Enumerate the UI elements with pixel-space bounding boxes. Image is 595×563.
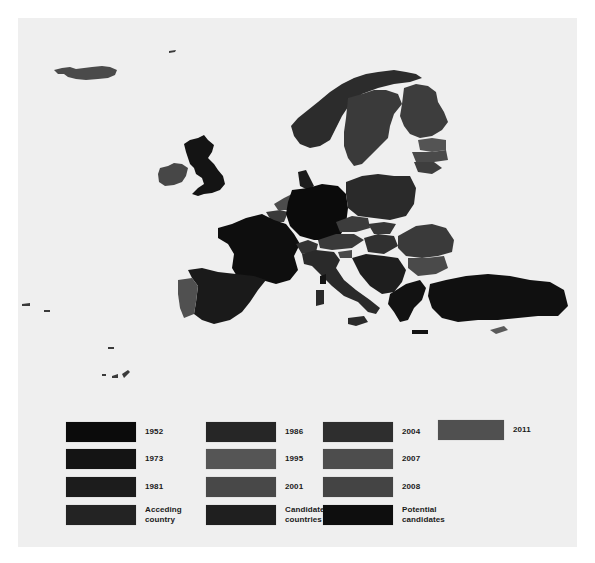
legend-label: 2004 [402, 427, 420, 437]
legend-label: 1952 [145, 427, 163, 437]
legend-item-acceding-country: Acceding country [66, 505, 182, 525]
legend-label: 2007 [402, 454, 420, 464]
legend-item-1986: 1986 [206, 422, 303, 442]
legend: 1952 1973 1981 Acceding country 1986 199… [18, 18, 577, 547]
legend-item-2008: 2008 [323, 477, 420, 497]
legend-item-1952: 1952 [66, 422, 163, 442]
legend-label: 1986 [285, 427, 303, 437]
legend-swatch [206, 505, 276, 525]
legend-label: Potential candidates [402, 505, 445, 525]
legend-item-potential-candidates: Potential candidates [323, 505, 445, 525]
legend-swatch [323, 477, 393, 497]
legend-item-2001: 2001 [206, 477, 303, 497]
legend-swatch [66, 505, 136, 525]
legend-item-2007: 2007 [323, 449, 420, 469]
legend-label: 2008 [402, 482, 420, 492]
legend-swatch [323, 422, 393, 442]
legend-label: Candidate countries [285, 505, 325, 525]
legend-swatch [66, 477, 136, 497]
legend-swatch [66, 422, 136, 442]
legend-swatch [206, 449, 276, 469]
figure-caption-clipped [18, 553, 318, 563]
figure-panel: 1952 1973 1981 Acceding country 1986 199… [18, 18, 577, 547]
legend-item-1981: 1981 [66, 477, 163, 497]
legend-swatch [66, 449, 136, 469]
legend-item-2004: 2004 [323, 422, 420, 442]
legend-item-2011: 2011 [438, 420, 531, 440]
legend-swatch [323, 505, 393, 525]
legend-label: Acceding country [145, 505, 182, 525]
legend-swatch [206, 422, 276, 442]
legend-label: 2011 [513, 425, 531, 435]
legend-label: 1995 [285, 454, 303, 464]
legend-swatch [206, 477, 276, 497]
legend-label: 2001 [285, 482, 303, 492]
legend-item-1995: 1995 [206, 449, 303, 469]
legend-label: 1981 [145, 482, 163, 492]
legend-item-1973: 1973 [66, 449, 163, 469]
legend-item-candidate-countries: Candidate countries [206, 505, 325, 525]
legend-swatch [323, 449, 393, 469]
legend-swatch [438, 420, 504, 440]
legend-label: 1973 [145, 454, 163, 464]
